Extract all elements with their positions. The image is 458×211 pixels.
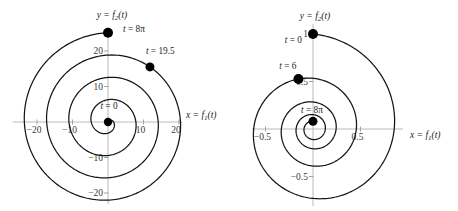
point-label-value: = 8π bbox=[304, 105, 324, 115]
axis-title-post: (t) bbox=[321, 11, 330, 22]
x-axis-title: x = f1(t) bbox=[409, 130, 441, 142]
parametric-spiral-figure: −20−101020−20−101020t = 0t = 19.5t = 8πx… bbox=[0, 0, 458, 211]
spiral-curve bbox=[253, 34, 394, 199]
axis-title-pre: y = f bbox=[96, 10, 116, 20]
y-axis-title: y = f2(t) bbox=[299, 11, 331, 23]
parameter-point-dot bbox=[308, 29, 318, 39]
parameter-point-dot bbox=[308, 117, 317, 126]
x-tick-label: 10 bbox=[136, 125, 146, 135]
axis-title-pre: x = f bbox=[409, 130, 429, 140]
parameter-point-dot bbox=[103, 28, 113, 38]
left-spiral-panel: −20−101020−20−101020t = 0t = 19.5t = 8πx… bbox=[0, 0, 229, 211]
parameter-point-dot bbox=[145, 62, 154, 71]
axis-title-pre: x = f bbox=[185, 110, 205, 120]
point-label: t = 6 bbox=[279, 61, 296, 71]
right-spiral-plot: −0.50.5−0.50.51t = 0t = 6t = 8πx = f1(t)… bbox=[229, 0, 458, 211]
point-label-value: = 6 bbox=[282, 61, 297, 71]
axis-title-pre: y = f bbox=[299, 11, 319, 21]
point-label: t = 0 bbox=[100, 101, 117, 111]
point-label-value: = 19.5 bbox=[149, 46, 176, 56]
y-tick-label: 10 bbox=[94, 82, 104, 92]
y-tick-label: −20 bbox=[88, 188, 103, 198]
x-tick-label: −0.5 bbox=[254, 132, 271, 142]
left-spiral-plot: −20−101020−20−101020t = 0t = 19.5t = 8πx… bbox=[0, 0, 229, 211]
spiral-curve bbox=[24, 33, 180, 200]
y-axis-title: y = f2(t) bbox=[96, 10, 128, 22]
y-tick-label: −0.5 bbox=[291, 172, 308, 182]
point-label-value: = 0 bbox=[287, 35, 302, 45]
axis-title-post: (t) bbox=[208, 110, 217, 121]
y-tick-label: 1 bbox=[303, 29, 308, 39]
point-label: t = 19.5 bbox=[146, 46, 175, 56]
x-axis-title: x = f1(t) bbox=[185, 110, 217, 122]
point-label-value: = 0 bbox=[103, 101, 118, 111]
right-spiral-panel: −0.50.5−0.50.51t = 0t = 6t = 8πx = f1(t)… bbox=[229, 0, 458, 211]
x-tick-label: −20 bbox=[27, 125, 42, 135]
point-label: t = 0 bbox=[285, 35, 302, 45]
y-tick-label: 20 bbox=[94, 46, 104, 56]
point-label: t = 8π bbox=[123, 24, 145, 34]
axis-title-post: (t) bbox=[118, 10, 127, 21]
parameter-point-dot bbox=[104, 118, 112, 126]
point-label: t = 8π bbox=[301, 105, 323, 115]
parameter-point-dot bbox=[293, 74, 303, 84]
point-label-value: = 8π bbox=[126, 24, 146, 34]
axis-title-post: (t) bbox=[432, 130, 441, 141]
